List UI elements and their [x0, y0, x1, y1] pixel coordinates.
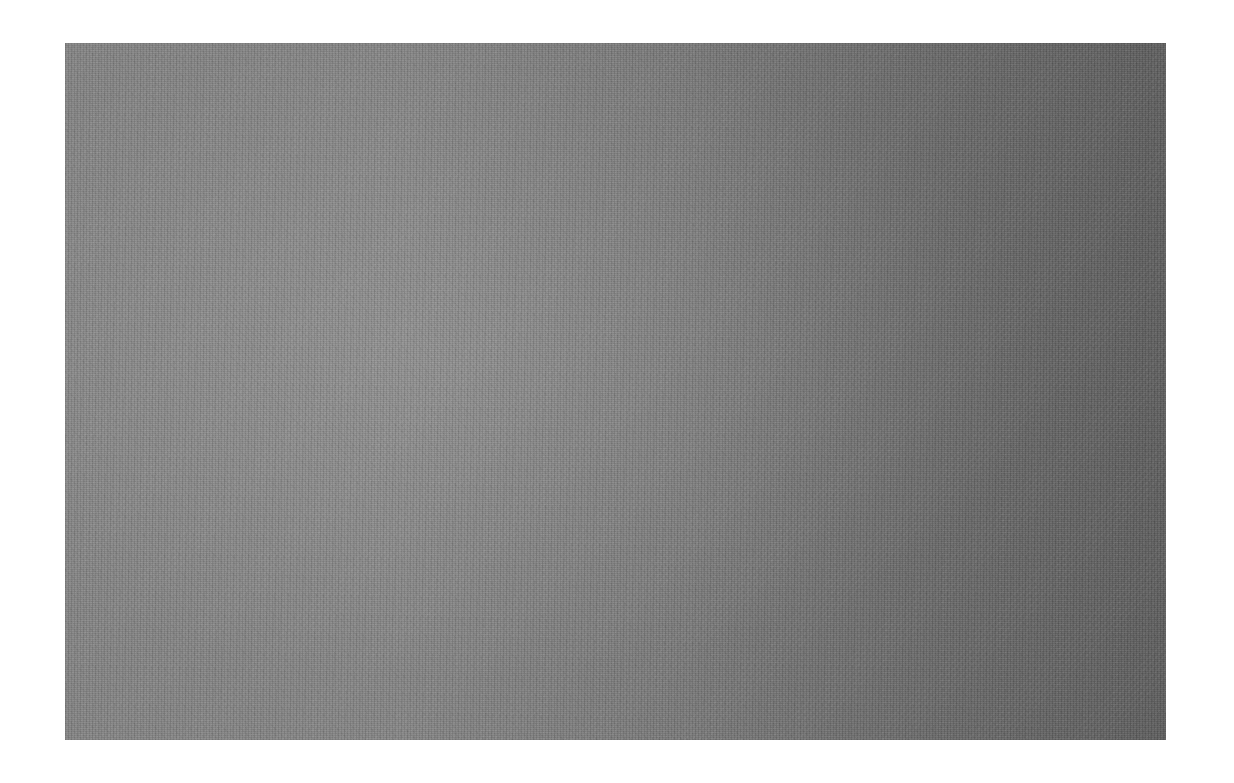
- image-description: Gray textured surface (felt or paper) on…: [0, 0, 1, 1]
- gray-texture-panel: [65, 43, 1166, 740]
- image-canvas: Gray textured surface (felt or paper) on…: [0, 0, 1234, 783]
